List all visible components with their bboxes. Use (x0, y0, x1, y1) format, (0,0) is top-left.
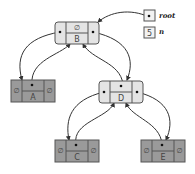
root-label: root (159, 11, 176, 20)
node-E-key: E (160, 153, 165, 162)
edge-C-parent-to-D (76, 103, 114, 144)
node-E: ∅ ∅ E (141, 140, 185, 162)
n-label: n (159, 27, 164, 36)
node-D-right-pointer (136, 91, 139, 94)
node-C-left: ∅ (57, 147, 63, 155)
node-C: ∅ ∅ C (55, 140, 99, 162)
node-C-key: C (74, 153, 80, 162)
node-E-left: ∅ (143, 147, 149, 155)
node-D: D (99, 81, 143, 103)
edge-A-parent-to-B (32, 44, 70, 84)
n-variable: 5 n (144, 27, 164, 38)
node-D-parent-pointer (120, 85, 123, 88)
node-E-right: ∅ (176, 147, 182, 155)
node-B: ∅ B (55, 22, 99, 44)
n-value: 5 (147, 29, 152, 38)
node-B-parent: ∅ (74, 24, 80, 32)
node-E-parent-pointer (161, 144, 164, 147)
edge-E-parent-to-D (126, 103, 162, 144)
edge-root-to-B (98, 12, 149, 22)
node-B-right-pointer (92, 31, 95, 34)
root-pointer (148, 15, 151, 18)
node-D-key: D (118, 94, 124, 103)
node-A-right: ∅ (46, 87, 52, 95)
node-A-left: ∅ (13, 87, 19, 95)
node-A-key: A (30, 93, 36, 102)
edge-B-left-to-A (20, 32, 60, 80)
node-C-parent-pointer (75, 144, 78, 147)
node-D-left-pointer (103, 91, 106, 94)
node-A: ∅ ∅ A (11, 80, 55, 102)
bst-diagram: ∅ B root 5 n ∅ ∅ A D (0, 0, 195, 174)
root-variable: root (144, 10, 176, 21)
node-B-key: B (74, 35, 80, 44)
node-A-parent-pointer (31, 84, 34, 87)
node-C-right: ∅ (90, 147, 96, 155)
node-B-left-pointer (59, 31, 62, 34)
edge-D-parent-to-B (83, 44, 123, 84)
